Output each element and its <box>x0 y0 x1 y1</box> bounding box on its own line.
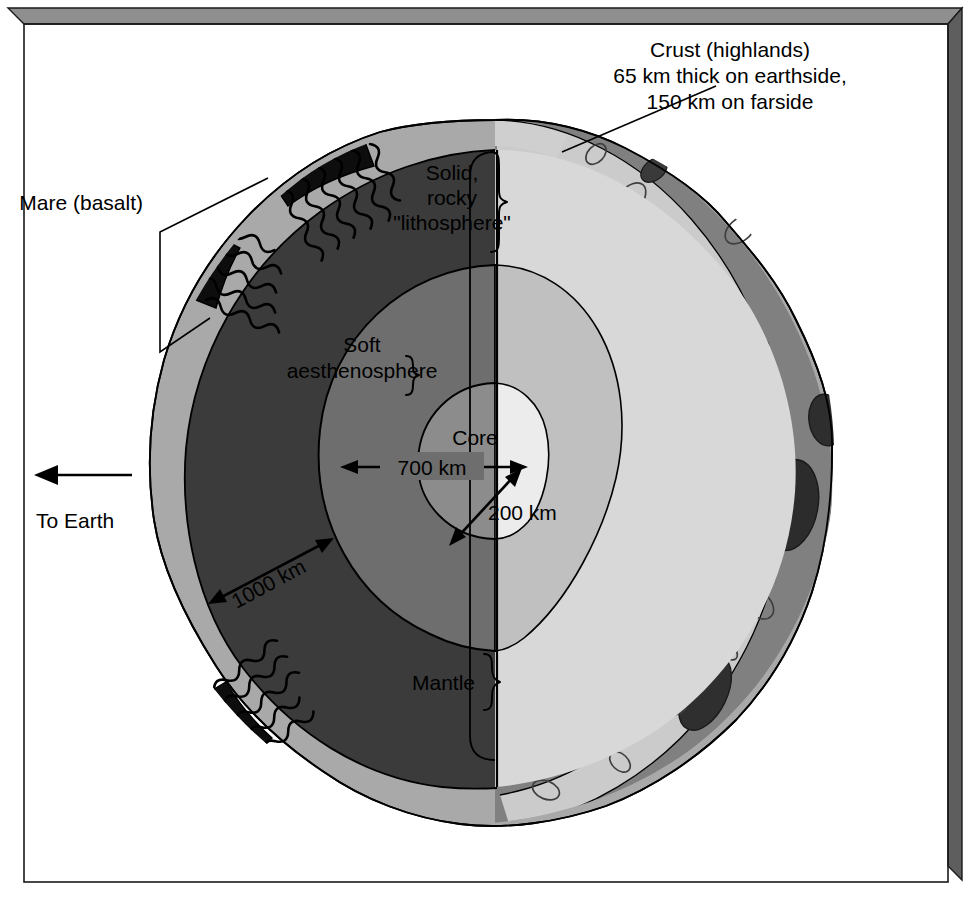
annotation-core: Core <box>452 426 498 449</box>
crust-label-line3: 150 km on farside <box>647 90 814 113</box>
asthenosphere-label-line1: Soft <box>343 333 381 356</box>
dim-200km-label: 200 km <box>488 501 557 524</box>
frame-top-bevel <box>8 8 962 24</box>
lithosphere-label-line3: "lithosphere" <box>393 211 511 234</box>
core-label: Core <box>452 426 498 449</box>
dim-700km-label: 700 km <box>398 456 467 479</box>
to-earth-label: To Earth <box>36 509 114 532</box>
moon-interior-diagram: Crust (highlands) 65 km thick on earthsi… <box>0 0 970 900</box>
mantle-label: Mantle <box>412 671 475 694</box>
lithosphere-label-line2: rocky <box>427 186 478 209</box>
crust-label-line1: Crust (highlands) <box>650 38 810 61</box>
lithosphere-label-line1: Solid, <box>426 161 479 184</box>
crust-label-line2: 65 km thick on earthside, <box>613 64 846 87</box>
frame-right-bevel <box>948 8 962 880</box>
mare-label: Mare (basalt) <box>19 191 143 214</box>
figure-root: Crust (highlands) 65 km thick on earthsi… <box>0 0 970 900</box>
